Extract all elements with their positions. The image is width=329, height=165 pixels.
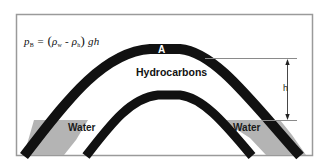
height-label: h [283,83,288,93]
buoyancy-pressure-formula: pB = (ρw - ρh) gh [24,33,99,49]
hydrocarbons-label: Hydrocarbons [136,66,207,78]
arrow-down-icon [285,114,289,120]
formula-water-density-subscript: w [57,42,62,48]
water-label-right: Water [233,122,260,133]
crest-label: A [158,44,165,55]
formula-gh: gh [88,35,99,47]
formula-minus: - [65,35,69,47]
formula-pressure-subscript: B [30,42,34,48]
formula-close-paren: ) [80,33,85,48]
diagram-canvas [0,0,329,165]
formula-equals: = [37,35,45,47]
water-label-left: Water [68,122,95,133]
arrow-up-icon [285,59,289,65]
inner-seal-layer [86,95,252,156]
anticline-diagram: pB = (ρw - ρh) gh A Hydrocarbons Water W… [0,0,329,165]
